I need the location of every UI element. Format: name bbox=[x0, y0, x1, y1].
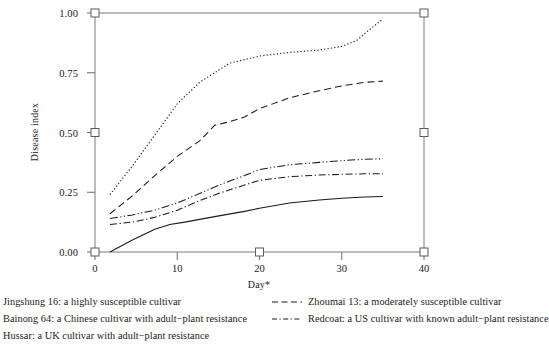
legend-swatch-dashed bbox=[272, 297, 302, 307]
y-tick-label-4: 0.25 bbox=[48, 187, 78, 198]
series-line-4 bbox=[110, 197, 383, 252]
legend-label: Hussar: a UK cultivar with adult−plant r… bbox=[3, 330, 209, 341]
x-tick-label-2: 10 bbox=[172, 263, 183, 274]
marker-left-0.50 bbox=[91, 129, 99, 137]
marker-bottom-20 bbox=[256, 248, 264, 256]
series-line-0 bbox=[110, 19, 383, 195]
y-tick-label-5: 0.00 bbox=[48, 247, 78, 258]
y-axis-label: Disease index bbox=[29, 103, 40, 161]
series-line-1 bbox=[110, 81, 383, 214]
x-tick-label-5: 40 bbox=[419, 263, 430, 274]
y-tick-label-1: 1.00 bbox=[48, 8, 78, 19]
data-series-layer bbox=[110, 19, 383, 252]
legend: Jingshung 16: a highly susceptible culti… bbox=[0, 292, 528, 347]
marker-right-0.00 bbox=[420, 248, 428, 256]
marker-left-0.00 bbox=[91, 248, 99, 256]
legend-item: Zhoumai 13: a moderately susceptible cul… bbox=[272, 292, 528, 309]
legend-item: Hussar: a UK cultivar with adult−plant r… bbox=[3, 326, 263, 343]
axes-frame bbox=[95, 13, 424, 252]
x-tick-label-4: 30 bbox=[336, 263, 347, 274]
x-tick-label-3: 20 bbox=[254, 263, 265, 274]
marker-right-0.50 bbox=[420, 129, 428, 137]
x-tick-label-1: 0 bbox=[92, 263, 97, 274]
legend-label: Bainong 64: a Chinese cultivar with adul… bbox=[3, 313, 247, 324]
spine-square-markers bbox=[91, 9, 428, 256]
marker-right-1.00 bbox=[420, 9, 428, 17]
legend-item: Redcoat: a US cultivar with known adult−… bbox=[272, 309, 528, 326]
marker-left-1.00 bbox=[91, 9, 99, 17]
legend-label: Jingshung 16: a highly susceptible culti… bbox=[3, 296, 181, 307]
series-line-2 bbox=[110, 159, 383, 219]
series-line-3 bbox=[110, 174, 383, 225]
legend-item: Jingshung 16: a highly susceptible culti… bbox=[3, 292, 263, 309]
legend-item: Bainong 64: a Chinese cultivar with adul… bbox=[3, 309, 263, 326]
legend-column-right: Zhoumai 13: a moderately susceptible cul… bbox=[272, 292, 528, 326]
legend-label: Redcoat: a US cultivar with known adult−… bbox=[308, 313, 549, 324]
x-axis-label: Day* bbox=[248, 279, 270, 290]
legend-column-left: Jingshung 16: a highly susceptible culti… bbox=[3, 292, 263, 343]
legend-swatch-dash-dot bbox=[272, 314, 302, 324]
legend-label: Zhoumai 13: a moderately susceptible cul… bbox=[308, 296, 502, 307]
y-tick-label-2: 0.75 bbox=[48, 67, 78, 78]
y-tick-label-3: 0.50 bbox=[48, 127, 78, 138]
